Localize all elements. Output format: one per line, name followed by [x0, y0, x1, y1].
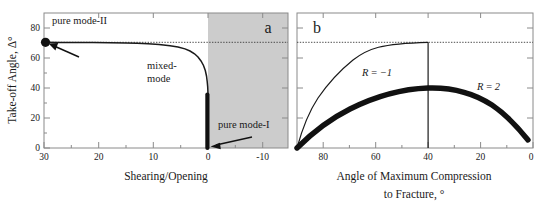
panel-a-pure-mode-ii-marker	[41, 38, 50, 47]
x-tick-20: 20	[94, 152, 104, 162]
x-tick-60: 60	[371, 152, 381, 162]
x-tick-10: 10	[149, 152, 159, 162]
panel-a: pure mode-II mixed- mode pure mode-I 0 2…	[6, 13, 288, 183]
figure-svg: pure mode-II mixed- mode pure mode-I 0 2…	[0, 0, 553, 209]
figure-container: pure mode-II mixed- mode pure mode-I 0 2…	[0, 0, 553, 209]
panel-b-x-tick-labels: 80 60 40 20 0	[318, 152, 533, 162]
x-tick-0: 0	[206, 152, 211, 162]
x-tick-0: 0	[529, 152, 534, 162]
panel-b-left-ticks	[297, 28, 303, 118]
panel-a-y-axis-title: Take-off Angle, Δ°	[6, 36, 19, 124]
panel-b-right-ticks	[527, 28, 533, 118]
panel-b-curve-r-2	[297, 88, 528, 148]
y-tick-20: 20	[31, 113, 41, 123]
panel-b: R = −1 R = 2 80 60 40 20 0 Angle of Maxi…	[297, 13, 534, 201]
x-tick-20: 20	[476, 152, 486, 162]
panel-a-y-tick-labels: 0 20 40 60 80	[31, 23, 41, 153]
panel-a-mixed-mode-label-line1: mixed-	[147, 60, 177, 71]
panel-a-pure-mode-ii-label: pure mode-II	[52, 15, 108, 26]
panel-a-x-axis-title: Shearing/Opening	[124, 170, 208, 183]
panel-a-pure-mode-i-label: pure mode-I	[218, 119, 270, 130]
panel-b-top-ticks	[323, 13, 480, 18]
panel-b-x-axis-title-line2: to Fracture, °	[384, 188, 445, 201]
panel-a-mixed-mode-label-line2: mode	[147, 73, 171, 84]
y-tick-80: 80	[31, 23, 41, 33]
panel-a-letter: a	[264, 19, 271, 36]
x-tick-40: 40	[423, 152, 433, 162]
x-tick-80: 80	[318, 152, 328, 162]
panel-b-letter: b	[313, 19, 321, 36]
panel-a-mixed-mode-curve	[44, 42, 208, 94]
y-tick-60: 60	[31, 53, 41, 63]
y-tick-40: 40	[31, 83, 41, 93]
panel-a-x-tick-labels: 30 20 10 0 -10	[39, 152, 269, 162]
panel-b-label-r-minus-1: R = −1	[361, 67, 392, 78]
panel-b-label-r-2: R = 2	[476, 81, 501, 92]
x-tick-30: 30	[39, 152, 49, 162]
x-tick-m10: -10	[256, 152, 269, 162]
panel-b-x-axis-title-line1: Angle of Maximum Compression	[337, 170, 492, 183]
panel-a-pure-mode-ii-arrow	[49, 43, 79, 57]
